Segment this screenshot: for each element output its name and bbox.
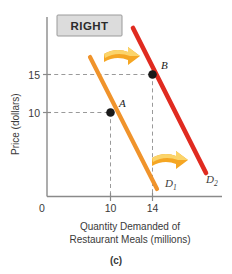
demand-curve-d1	[90, 57, 157, 189]
data-point-a-label: A	[118, 97, 126, 109]
right-label-text: RIGHT	[71, 20, 109, 32]
curve-label-d1-text: D	[164, 177, 173, 189]
x-axis-title-line1: Quantity Demanded of	[80, 221, 180, 232]
axes	[43, 17, 222, 201]
y-tick-label-10: 10	[28, 107, 40, 119]
data-point-a	[106, 108, 115, 117]
origin-label: 0	[39, 202, 45, 214]
gridlines-dashed	[47, 74, 153, 196]
right-label-box: RIGHT	[57, 15, 122, 36]
chart-canvas: A B D 1 D 2 15 10 10 14 0 Price (dollars…	[0, 0, 232, 274]
curve-label-d2: D 2	[205, 173, 218, 188]
x-tick-label-14: 14	[147, 202, 159, 214]
data-point-b-label: B	[161, 59, 168, 71]
x-axis-title-line2: Restaurant Meals (millions)	[69, 234, 190, 245]
curve-label-d1: D 1	[164, 177, 177, 192]
shift-arrow-upper-icon	[104, 47, 140, 65]
shift-arrow-lower-icon	[152, 151, 188, 169]
curve-label-d2-sub: 2	[214, 179, 218, 188]
demand-shift-figure: A B D 1 D 2 15 10 10 14 0 Price (dollars…	[0, 0, 232, 274]
curve-label-d1-sub: 1	[173, 183, 177, 192]
y-axis-title: Price (dollars)	[10, 93, 21, 155]
x-tick-label-10: 10	[105, 202, 117, 214]
figure-caption: (c)	[110, 255, 122, 266]
y-tick-label-15: 15	[28, 69, 40, 81]
demand-curve-d2	[133, 28, 206, 173]
data-point-b	[148, 70, 157, 79]
curve-label-d2-text: D	[205, 173, 214, 185]
